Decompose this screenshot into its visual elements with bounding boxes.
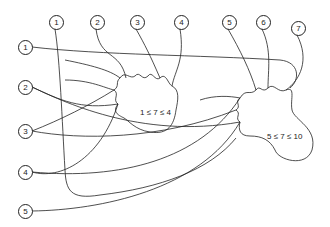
left-node-4: 4 [18,165,33,180]
top-node-4: 4 [174,15,189,30]
region-label-left: 1 ≤ 7 ≤ 4 [140,108,171,117]
left-node-5: 5 [18,204,33,219]
top-node-7: 7 [291,21,306,36]
left-node-2: 2 [18,80,33,95]
left-node-1: 1 [18,40,33,55]
region-label-right: 5 ≤ 7 ≤ 10 [267,132,302,141]
diagram-canvas: 1 2 3 4 5 6 7 1 2 3 4 5 1 ≤ 7 ≤ 4 5 ≤ 7 … [0,0,330,227]
left-node-3: 3 [18,124,33,139]
top-node-5: 5 [222,15,237,30]
top-node-3: 3 [130,15,145,30]
top-node-2: 2 [90,15,105,30]
top-node-1: 1 [49,15,64,30]
top-node-6: 6 [256,15,271,30]
